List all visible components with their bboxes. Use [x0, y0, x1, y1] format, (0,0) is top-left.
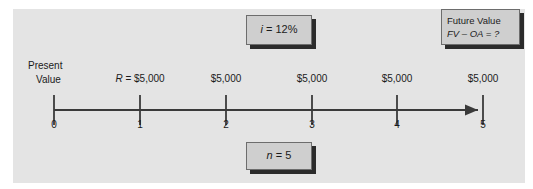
amount-label-period-2: $5,000	[211, 73, 242, 84]
period-label-3: 3	[309, 119, 315, 130]
period-label-0: 0	[51, 119, 57, 130]
period-label-1: 1	[137, 119, 143, 130]
timeline-axis	[0, 0, 533, 189]
amount-label-period-5: $5,000	[468, 73, 499, 84]
amount-label-period-1: R = $5,000	[115, 73, 164, 84]
period-label-4: 4	[394, 119, 400, 130]
amount-label-period-3: $5,000	[297, 73, 328, 84]
timeline-arrowhead	[465, 105, 478, 116]
time-value-diagram: i = 12% n = 5 Future Value FV – OA = ? P…	[0, 0, 533, 189]
period-label-2: 2	[223, 119, 229, 130]
period-label-5: 5	[480, 119, 486, 130]
amount-label-period-4: $5,000	[382, 73, 413, 84]
